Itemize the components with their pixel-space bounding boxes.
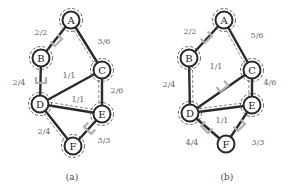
node-label: B [185,53,192,64]
saturated-edge-marker [217,81,228,91]
node-D: D [29,93,52,116]
edge-label-DE: 1/1 [72,95,85,104]
node-label: D [186,108,194,119]
node-B: B [178,47,201,70]
node-B: B [30,47,53,70]
node-C: C [91,59,114,82]
edge-label-AC: 5/6 [251,31,264,40]
graph-a: 2/23/62/41/12/61/12/43/3ABCDEF(a) [13,9,124,183]
edge-label-AC: 3/6 [98,37,111,46]
node-label: C [248,65,256,76]
node-label: A [66,15,75,26]
caption: (a) [66,172,78,182]
edge-label-DF: 2/4 [38,127,51,136]
edge-label-CE: 2/6 [111,86,124,95]
edge-label-EF: 3/3 [98,136,111,145]
edge-label-CD: 1/1 [210,62,223,71]
edge-label-DE: 1/1 [216,116,229,125]
node-label: F [70,141,77,152]
edge-label-CE: 4/6 [264,78,277,87]
node-E: E [241,94,264,117]
node-F: F [62,135,85,158]
node-A: A [213,9,236,32]
edge-label-BD: 2/4 [13,78,26,87]
max-flow-diagrams: 2/23/62/41/12/61/12/43/3ABCDEF(a) 2/25/6… [0,0,290,190]
node-label: C [98,65,106,76]
node-E: E [91,103,114,126]
node-label: E [98,109,105,120]
node-A: A [60,9,83,32]
edge-label-DF: 4/4 [186,138,199,147]
node-label: A [219,15,228,26]
node-F: F [218,136,235,153]
edge-label-AB: 2/2 [184,27,197,36]
graph-b: 2/25/62/41/14/61/14/43/3ABCDEF(b) [163,9,277,183]
node-label: E [248,100,255,111]
edge-label-BD: 2/4 [163,80,176,89]
node-label: F [223,139,230,150]
edge-label-EF: 3/3 [252,138,265,147]
node-label: D [36,99,44,110]
edge-label-CD: 1/1 [63,71,76,80]
caption: (b) [221,172,234,182]
node-label: B [37,53,44,64]
edge-label-AB: 2/2 [35,28,48,37]
